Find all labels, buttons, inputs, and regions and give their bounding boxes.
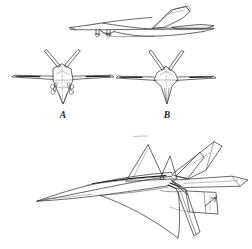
three-quarter-perspective-view bbox=[37, 136, 248, 238]
figure-label-b: B bbox=[163, 110, 170, 120]
side-profile-view bbox=[70, 6, 214, 37]
figure-sheet: A B bbox=[0, 0, 252, 249]
front-view-a: A bbox=[12, 50, 114, 120]
front-view-b: B bbox=[116, 50, 216, 120]
leader-arrow-icon bbox=[205, 197, 216, 206]
figure-label-a: A bbox=[59, 110, 66, 120]
drawing-canvas: A B bbox=[0, 0, 252, 249]
